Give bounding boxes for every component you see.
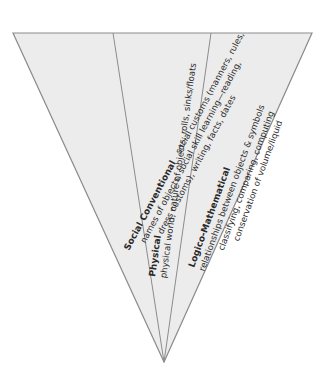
knowledge-types-diagram: Social Conventional social customs (mann… (0, 0, 322, 372)
